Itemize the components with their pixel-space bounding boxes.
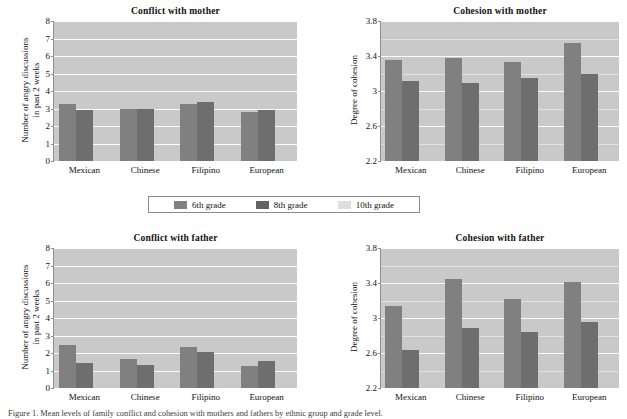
y-tick-value: 2.6 [366,348,377,358]
y-tick-value: 3 [373,313,378,323]
legend-label: 8th grade [274,200,308,210]
bar [564,282,581,388]
legend-label: 10th grade [356,200,394,210]
legend-label: 6th grade [192,200,226,210]
x-tick-label: European [560,392,620,402]
legend-swatch-icon [174,201,187,209]
bar-group-chinese [441,248,501,388]
legend-item-0: 6th grade [174,200,226,210]
y-tick-value: 3.4 [366,278,377,288]
x-tick-label: Mexican [381,392,441,402]
x-tick-label: Chinese [441,392,501,402]
bar [504,299,521,388]
y-axis-ticks: 2.22.633.43.8 [357,248,379,388]
chart-title: Cohesion with father [381,231,619,245]
chart-legend: 6th grade8th grade10th grade [148,196,420,213]
legend-item-1: 8th grade [256,200,308,210]
bar-series-container [381,248,619,388]
legend-item-2: 10th grade [338,200,394,210]
bar [521,332,538,388]
y-tick-value: 3.8 [366,243,377,253]
y-tick-label: 3.8 [366,243,377,253]
x-axis-labels: MexicanChineseFilipinoEuropean [381,392,619,402]
y-tick-label: 3.4 [366,278,377,288]
bar [581,322,598,389]
x-tick-label: Filipino [500,392,560,402]
y-tick-label: 2.2 [366,383,377,393]
bar-group-filipino [500,248,560,388]
legend-swatch-icon [256,201,269,209]
figure-caption: Figure 1. Mean levels of family conflict… [8,409,620,419]
bar [462,328,479,388]
y-tick-value: 2.2 [366,383,377,393]
plot-area [381,248,619,388]
bar-group-mexican [381,248,441,388]
legend-swatch-icon [338,201,351,209]
bar-group-european [560,248,620,388]
bar [445,279,462,388]
figure-panel-grid: Conflict with motherNumber of angry disc… [0,0,627,419]
bar [402,350,419,388]
bar [385,306,402,388]
y-tick-label: 3 [373,313,378,323]
y-tick-label: 2.6 [366,348,377,358]
